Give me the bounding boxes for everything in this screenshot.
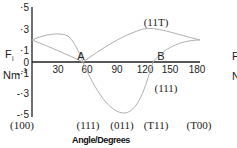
x-ticks: 30 60 90 120 150 180 bbox=[52, 64, 205, 75]
x-axis-title: Angle/Degrees bbox=[72, 135, 130, 145]
svg-text:60: 60 bbox=[81, 64, 93, 75]
svg-text:F: F bbox=[5, 48, 12, 60]
curve-label-11T: (11T) bbox=[144, 16, 169, 29]
y-ticks: ·5 ·3 ·1 0 -·1 -·3 -·5 bbox=[17, 2, 30, 120]
svg-text:90: 90 bbox=[111, 64, 123, 75]
svg-text:150: 150 bbox=[162, 64, 179, 75]
curve-lower-branch bbox=[32, 40, 83, 62]
svg-text:(100): (100) bbox=[10, 119, 34, 132]
svg-text:·1: ·1 bbox=[20, 45, 29, 56]
svg-text:-·3: -·3 bbox=[17, 88, 30, 99]
curve-11T bbox=[83, 28, 200, 62]
svg-text:(111): (111) bbox=[76, 119, 99, 132]
svg-text:180: 180 bbox=[189, 64, 206, 75]
svg-text:(011): (011) bbox=[110, 119, 134, 132]
svg-text:·5: ·5 bbox=[20, 2, 29, 13]
svg-text:(T11): (T11) bbox=[144, 119, 169, 132]
curve-111 bbox=[83, 40, 200, 113]
curve-label-111: (111) bbox=[154, 82, 177, 95]
svg-text:i: i bbox=[12, 55, 14, 62]
point-B-label: B bbox=[157, 50, 164, 62]
svg-text:Nm: Nm bbox=[3, 69, 20, 81]
svg-text:·3: ·3 bbox=[20, 24, 29, 35]
right-edge-label-F: F bbox=[232, 50, 237, 62]
point-A-label: A bbox=[77, 50, 85, 62]
svg-text:30: 30 bbox=[52, 64, 64, 75]
svg-text:120: 120 bbox=[137, 64, 154, 75]
chart: ·5 ·3 ·1 0 -·1 -·3 -·5 30 60 90 120 150 … bbox=[0, 0, 237, 148]
curve-upper-branch bbox=[32, 34, 83, 62]
orientation-labels: (100) (111) (011) (T11) (T00) bbox=[10, 119, 212, 132]
svg-text:(T00): (T00) bbox=[186, 119, 211, 132]
right-edge-label-N: N bbox=[232, 70, 237, 82]
svg-text:-1: -1 bbox=[21, 67, 27, 74]
